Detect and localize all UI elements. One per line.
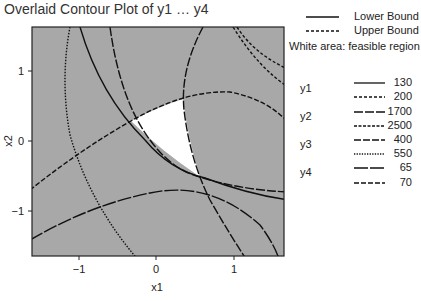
legend-value: 2500 (388, 119, 412, 131)
y-tick-label: 1 (18, 65, 24, 77)
legend-lower-bound: Lower Bound (354, 10, 419, 22)
legend-value: 70 (400, 176, 412, 188)
y-axis-label: x2 (2, 135, 14, 147)
y-tick-label: −1 (11, 205, 24, 217)
legend-value: 1700 (388, 105, 412, 117)
legend-response-y1: y1 (300, 82, 312, 94)
x-axis-label: x1 (151, 281, 163, 293)
x-tick-label: 0 (153, 263, 159, 275)
legend-upper-bound: Upper Bound (354, 24, 419, 36)
y-tick-label: 0 (18, 135, 24, 147)
x-tick-label: −1 (73, 263, 86, 275)
legend-response-y3: y3 (300, 138, 312, 150)
legend-value: 65 (400, 161, 412, 173)
legend-value: 130 (394, 76, 412, 88)
legend-response-y4: y4 (300, 166, 312, 178)
legend-value: 200 (394, 90, 412, 102)
x-tick-label: 1 (231, 263, 237, 275)
legend-value: 550 (394, 147, 412, 159)
legend-value: 400 (394, 133, 412, 145)
legend-note: White area: feasible region (289, 40, 420, 52)
legend-response-y2: y2 (300, 110, 312, 122)
